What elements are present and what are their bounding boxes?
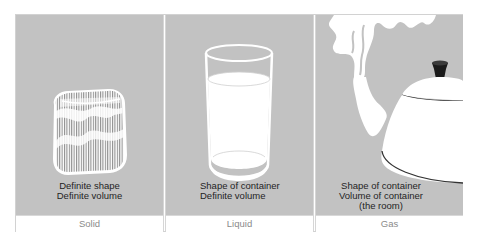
caption-line: Definite volume <box>200 191 313 201</box>
panel-solid: Definite shape Definite volume Solid <box>16 15 163 231</box>
panel-gas-art: Shape of container Volume of container (… <box>316 15 463 215</box>
panel-liquid-caption: Shape of container Definite volume <box>166 181 313 201</box>
steam-icon <box>329 15 436 77</box>
panel-gas: Shape of container Volume of container (… <box>316 15 463 231</box>
panel-gas-label: Gas <box>316 215 463 232</box>
caption-line: Definite volume <box>16 191 163 201</box>
panel-liquid-art: Shape of container Definite volume <box>166 15 313 215</box>
panel-gas-caption: Shape of container Volume of container (… <box>316 181 436 211</box>
panel-solid-label: Solid <box>16 215 163 232</box>
panel-liquid-label: Liquid <box>166 215 313 232</box>
panel-solid-art: Definite shape Definite volume <box>16 15 163 215</box>
states-of-matter-figure: Definite shape Definite volume Solid Sha… <box>15 14 463 232</box>
caption-line: (the room) <box>326 201 436 211</box>
panel-liquid: Shape of container Definite volume Liqui… <box>166 15 313 231</box>
panel-solid-caption: Definite shape Definite volume <box>16 181 163 201</box>
